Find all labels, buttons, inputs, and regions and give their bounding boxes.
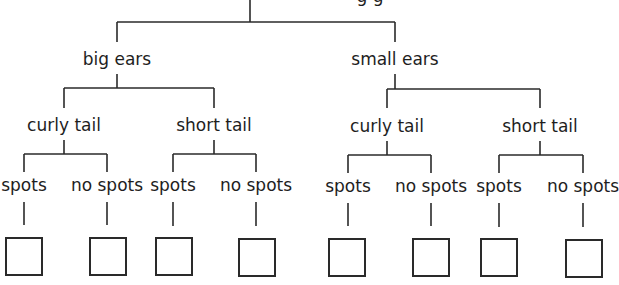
leaf-label-1: spots bbox=[1, 175, 47, 195]
answer-box-7[interactable] bbox=[480, 238, 518, 277]
leaf-label-5: spots bbox=[325, 176, 371, 196]
leaf-label-7: spots bbox=[476, 176, 522, 196]
leaf-label-3: spots bbox=[150, 175, 196, 195]
answer-box-5[interactable] bbox=[328, 238, 366, 277]
node-small-ears-short-tail: short tail bbox=[502, 116, 578, 136]
answer-box-2[interactable] bbox=[89, 237, 127, 276]
answer-box-8[interactable] bbox=[565, 239, 603, 278]
root-label-fragment: g g bbox=[357, 0, 384, 6]
node-small-ears: small ears bbox=[351, 49, 438, 69]
answer-box-4[interactable] bbox=[238, 238, 276, 277]
answer-box-3[interactable] bbox=[155, 237, 193, 276]
answer-box-6[interactable] bbox=[412, 238, 450, 277]
node-big-ears-short-tail: short tail bbox=[176, 115, 252, 135]
leaf-label-4: no spots bbox=[220, 175, 292, 195]
leaf-label-6: no spots bbox=[395, 176, 467, 196]
node-small-ears-curly-tail: curly tail bbox=[350, 116, 424, 136]
node-big-ears-curly-tail: curly tail bbox=[27, 115, 101, 135]
leaf-label-8: no spots bbox=[547, 176, 619, 196]
answer-box-1[interactable] bbox=[5, 237, 43, 276]
node-big-ears: big ears bbox=[83, 49, 151, 69]
leaf-label-2: no spots bbox=[71, 175, 143, 195]
